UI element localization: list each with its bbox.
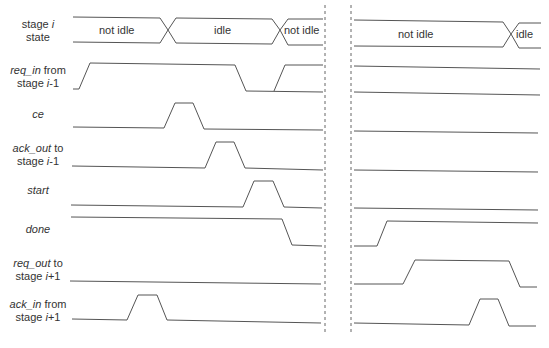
wave-req-out-right bbox=[354, 260, 537, 287]
wave-req-out-left bbox=[70, 281, 321, 284]
wave-ack-out-right bbox=[354, 170, 538, 172]
wave-done-left bbox=[71, 217, 322, 246]
wave-start-right bbox=[354, 208, 538, 210]
wave-state-left: not idle idle not idle bbox=[73, 17, 323, 45]
wave-req-in-left-rise bbox=[274, 65, 323, 91]
state-text-1: not idle bbox=[99, 24, 134, 36]
wave-req-in-right-low bbox=[354, 92, 540, 95]
wave-req-in-left bbox=[73, 63, 323, 92]
wave-state-right: not idle idle bbox=[354, 20, 541, 48]
wave-ce-left bbox=[73, 103, 323, 130]
wave-ce-right bbox=[354, 131, 538, 133]
timing-diagram: not idle idle not idle not idle idle bbox=[0, 0, 549, 348]
state-text-3: not idle bbox=[284, 24, 319, 36]
state-text-2: idle bbox=[214, 24, 231, 36]
wave-done-right bbox=[354, 221, 538, 246]
wave-ack-in-right bbox=[354, 299, 536, 326]
wave-ack-in-left bbox=[72, 295, 321, 323]
state-text-4: not idle bbox=[398, 28, 433, 40]
wave-start-left bbox=[71, 181, 322, 208]
wave-ack-out-left bbox=[72, 142, 323, 170]
state-text-5: idle bbox=[516, 28, 533, 40]
wave-req-in-right-high bbox=[354, 66, 540, 69]
